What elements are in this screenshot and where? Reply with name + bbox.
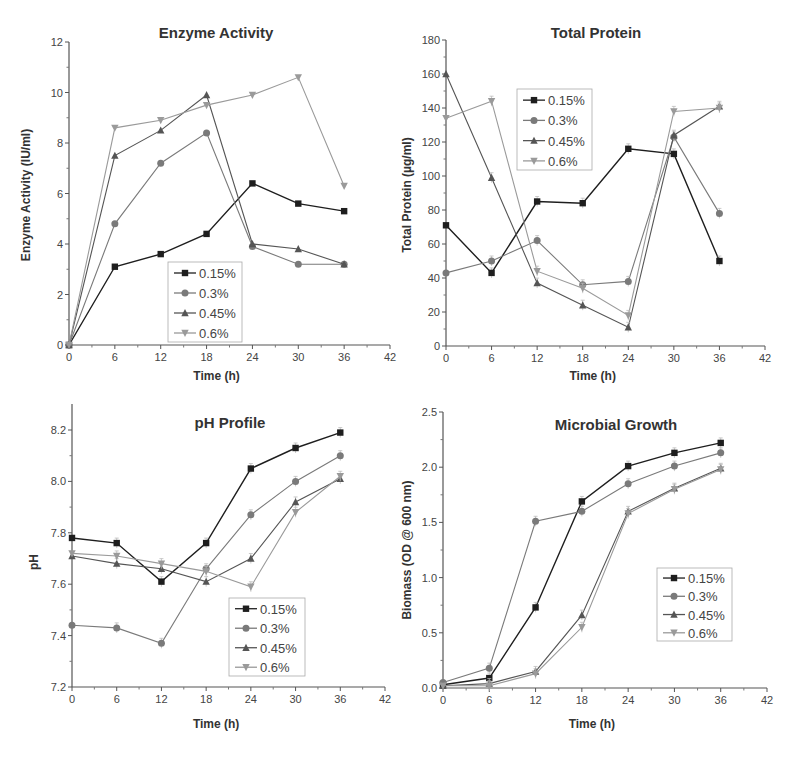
x-tick-label: 18 [200,351,212,363]
y-tick-label: 160 [422,68,440,80]
x-tick-label: 12 [531,352,543,364]
square-marker-icon [158,578,164,584]
legend: 0.15%0.3%0.45%0.6% [517,89,592,170]
circle-marker-icon [671,463,678,470]
chart-title: Enzyme Activity [159,24,274,41]
circle-marker-icon [443,269,450,276]
x-tick-label: 42 [379,693,391,705]
circle-marker-icon [158,640,165,647]
y-tick-label: 80 [428,204,440,216]
x-tick-label: 30 [289,693,301,705]
square-marker-icon [488,270,494,276]
y-tick-label: 0.5 [422,627,437,639]
square-marker-icon [69,535,75,541]
circle-marker-icon [534,237,541,244]
x-tick-label: 0 [443,352,449,364]
circle-legend-icon [671,593,678,600]
y-tick-label: 6 [57,188,63,200]
series-0-3 [440,448,725,686]
y-tick-label: 120 [422,136,440,148]
circle-legend-icon [182,290,189,297]
triangle-down-marker-icon [670,108,677,115]
circle-marker-icon [578,508,585,515]
y-tick-label: 2.0 [422,461,437,473]
triangle-up-marker-icon [533,279,540,286]
series-line [72,433,340,582]
legend-label: 0.45% [688,608,725,623]
x-tick-label: 12 [529,694,541,706]
square-legend-icon [671,575,677,581]
legend-label: 0.6% [688,626,718,641]
circle-marker-icon [113,624,120,631]
legend: 0.15%0.3%0.45%0.6% [657,568,732,641]
x-axis-title: Time (h) [193,369,239,383]
chart-title: pH Profile [195,414,266,431]
y-axis-title: pH [27,554,41,570]
circle-marker-icon [486,665,493,672]
y-tick-label: 8.2 [51,424,66,436]
circle-marker-icon [337,452,344,459]
y-tick-label: 100 [422,170,440,182]
legend-label: 0.6% [548,154,578,169]
circle-marker-icon [111,220,118,227]
x-tick-label: 0 [69,693,75,705]
x-tick-label: 42 [759,352,771,364]
legend-label: 0.15% [260,602,297,617]
y-tick-label: 8.0 [51,475,66,487]
x-tick-label: 36 [334,693,346,705]
y-axis-title: Enzyme Activity (IU/ml) [19,129,33,261]
circle-marker-icon [717,449,724,456]
x-tick-label: 24 [622,352,634,364]
triangle-up-marker-icon [292,498,299,505]
legend-label: 0.3% [199,286,229,301]
x-tick-label: 18 [577,352,589,364]
square-marker-icon [203,231,209,237]
square-marker-icon [341,208,347,214]
circle-marker-icon [247,511,254,518]
square-marker-icon [671,151,677,157]
x-tick-label: 36 [715,694,727,706]
legend-label: 0.45% [260,641,297,656]
x-tick-label: 12 [155,693,167,705]
square-marker-icon [716,258,722,264]
y-tick-label: 10 [51,87,63,99]
y-tick-label: 60 [428,238,440,250]
circle-marker-icon [625,480,632,487]
y-axis-title: Biomass (OD @ 600 nm) [400,480,414,619]
axes: 061218243036427.27.47.67.88.08.2 [51,404,391,705]
x-axis-title: Time (h) [569,369,615,383]
y-tick-label: 20 [428,306,440,318]
chart-enzyme-activity: 06121824303642024681012Enzyme ActivityTi… [19,24,396,383]
square-marker-icon [337,429,343,435]
y-tick-label: 0 [434,340,440,352]
y-tick-label: 40 [428,272,440,284]
x-tick-label: 18 [200,693,212,705]
x-tick-label: 24 [622,694,634,706]
x-tick-label: 0 [66,351,72,363]
triangle-down-marker-icon [340,183,347,190]
triangle-down-marker-icon [337,473,344,480]
square-marker-icon [580,200,586,206]
triangle-up-marker-icon [488,174,495,181]
triangle-up-marker-icon [203,91,210,98]
square-marker-icon [718,440,724,446]
square-marker-icon [114,540,120,546]
circle-marker-icon [295,261,302,268]
square-marker-icon [295,200,301,206]
legend-label: 0.3% [260,621,290,636]
y-tick-label: 4 [57,238,63,250]
triangle-down-marker-icon [247,584,254,591]
x-tick-label: 6 [112,351,118,363]
series-line [443,443,721,685]
legend-label: 0.15% [548,93,585,108]
x-tick-label: 0 [440,694,446,706]
legend-label: 0.6% [260,660,290,675]
square-marker-icon [671,450,677,456]
circle-legend-icon [531,117,538,124]
x-tick-label: 6 [114,693,120,705]
legend-label: 0.45% [548,134,585,149]
chart-title: Microbial Growth [555,416,678,433]
x-tick-label: 6 [486,694,492,706]
square-marker-icon [292,445,298,451]
square-marker-icon [249,180,255,186]
